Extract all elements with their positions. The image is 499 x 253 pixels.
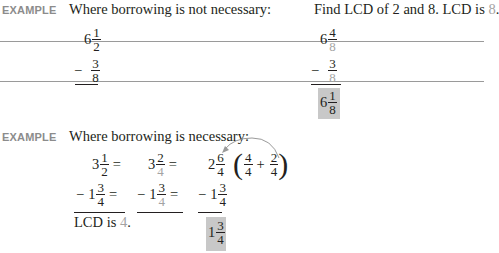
- lcd-note: LCD is 4.: [74, 214, 131, 231]
- subtrahend: − 1 34 =: [76, 181, 121, 208]
- borrow-arrow-icon: [220, 134, 282, 160]
- rule-line: [0, 81, 484, 82]
- example-label: EXAMPLE: [2, 131, 57, 143]
- mixed-number: 3 12 =: [92, 151, 125, 178]
- subtraction-bar: [311, 84, 341, 85]
- mixed-number: 6 48: [320, 26, 337, 53]
- subtrahend: − 38: [74, 57, 100, 84]
- subtrahend: − 38: [311, 57, 337, 84]
- fraction: 34: [218, 181, 227, 208]
- rule-line: [0, 41, 484, 42]
- lcd-note: Find LCD of 2 and 8. LCD is 8.: [314, 1, 499, 18]
- subtraction-bar: [137, 212, 183, 213]
- fraction: 12: [92, 26, 101, 53]
- example-heading: Where borrowing is not necessary:: [69, 1, 271, 18]
- subtrahend: − 1 34 =: [137, 181, 182, 208]
- subtraction-bar: [74, 212, 125, 213]
- answer: 1 34: [208, 219, 225, 246]
- fraction: 38: [91, 57, 100, 84]
- subtraction-bar: [75, 84, 98, 85]
- fraction: 24: [156, 151, 165, 178]
- fraction: 34: [216, 219, 225, 246]
- fraction: 34: [157, 181, 166, 208]
- fraction: 12: [100, 151, 109, 178]
- mixed-number: 6 12: [84, 26, 101, 53]
- fraction: 48: [328, 26, 337, 53]
- lcd-value: 8: [488, 1, 495, 17]
- answer: 6 18: [320, 89, 337, 116]
- subtraction-bar: [198, 212, 222, 213]
- fraction: 38: [328, 57, 337, 84]
- fraction: 34: [96, 181, 105, 208]
- example-label: EXAMPLE: [2, 4, 57, 16]
- mixed-number: 3 24 =: [148, 151, 181, 178]
- subtrahend: − 1 34: [198, 181, 227, 208]
- fraction: 18: [328, 89, 337, 116]
